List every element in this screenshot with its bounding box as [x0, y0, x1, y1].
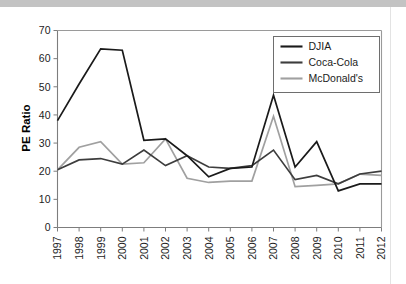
pe-ratio-line-chart: 010203040506070 199719981999200020012002…	[0, 0, 406, 284]
legend-label-mcdonald-s: McDonald's	[309, 72, 364, 84]
y-tick-label: 50	[39, 81, 51, 93]
y-tick-label: 10	[39, 193, 51, 205]
x-tick-label: 2012	[375, 236, 387, 260]
y-axis: 010203040506070	[39, 24, 58, 233]
x-tick-label: 2004	[203, 236, 215, 260]
x-tick-label: 2000	[116, 236, 128, 260]
y-axis-title: PE Ratio	[20, 104, 32, 151]
y-tick-label: 20	[39, 165, 51, 177]
x-tick-label: 2003	[181, 236, 193, 260]
chart-legend: DJIACoca-ColaMcDonald's	[274, 37, 380, 93]
x-tick-label: 2011	[354, 236, 366, 259]
y-tick-label: 40	[39, 109, 51, 121]
x-tick-label: 2006	[246, 236, 258, 260]
x-tick-label: 2010	[332, 236, 344, 260]
x-tick-label: 2002	[159, 236, 171, 260]
chart-canvas: 010203040506070 199719981999200020012002…	[0, 0, 406, 284]
x-tick-label: 2009	[311, 236, 323, 260]
x-tick-label: 2005	[224, 236, 236, 260]
x-axis: 1997199819992000200120022003200420052006…	[51, 228, 387, 260]
x-tick-label: 2001	[138, 236, 150, 260]
legend-label-coca-cola: Coca-Cola	[309, 56, 359, 68]
y-tick-label: 60	[39, 52, 51, 64]
y-tick-label: 70	[39, 24, 51, 36]
x-tick-label: 1998	[73, 236, 85, 260]
legend-label-djia: DJIA	[309, 40, 332, 52]
series-line-mcdonald-s	[58, 116, 382, 186]
y-tick-label: 0	[45, 221, 51, 233]
y-tick-label: 30	[39, 137, 51, 149]
x-tick-label: 1997	[51, 236, 63, 260]
x-tick-label: 2007	[267, 236, 279, 260]
x-tick-label: 1999	[95, 236, 107, 260]
x-tick-label: 2008	[289, 236, 301, 260]
